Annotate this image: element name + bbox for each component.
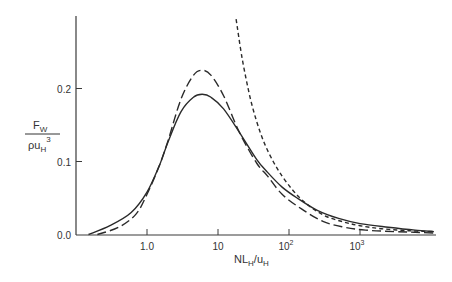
x-ticks: 1.010102103 — [140, 229, 365, 252]
svg-text:NLH/uH: NLH/uH — [234, 253, 269, 268]
axes — [76, 16, 436, 235]
svg-text:ρuH3: ρuH3 — [28, 135, 51, 154]
y-label-numerator-sub: W — [40, 125, 48, 134]
x-tick-label: 1.0 — [140, 241, 154, 252]
x-tick-label: 10 — [212, 241, 224, 252]
y-tick-label: 0.2 — [57, 84, 71, 95]
x-label-main: NL — [234, 253, 248, 265]
x-axis-label: NLH/uH — [234, 253, 269, 268]
y-tick-label: 0.1 — [57, 157, 71, 168]
y-label-denominator: ρu — [28, 139, 40, 151]
x-tick-label: 103 — [349, 239, 364, 252]
y-label-denominator-sup: 3 — [46, 135, 51, 144]
x-tick-label: 102 — [278, 239, 293, 252]
y-label-denominator-sub: H — [40, 145, 46, 154]
curve-long-dashed — [97, 70, 434, 234]
x-label-mid: /u — [254, 253, 263, 265]
y-ticks: 0.00.10.2 — [57, 84, 82, 241]
svg-text:FW: FW — [33, 119, 48, 134]
curve-solid — [89, 94, 434, 234]
curves — [89, 19, 434, 234]
y-tick-label: 0.0 — [57, 230, 71, 241]
x-label-sub2: H — [263, 259, 269, 268]
chart: 0.00.10.2 1.010102103 FW ρuH3 NLH/uH — [0, 0, 452, 282]
curve-short-dashed — [236, 19, 434, 231]
y-axis-label: FW ρuH3 — [25, 119, 60, 154]
